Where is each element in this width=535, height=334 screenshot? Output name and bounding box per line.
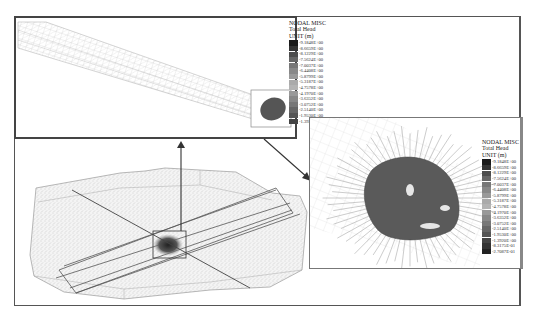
legend-swatch bbox=[482, 176, 491, 181]
legend-swatch bbox=[482, 215, 491, 220]
legend-swatch bbox=[482, 221, 491, 226]
top-legend: NODAL MISC Total Head UNIT (m) -9.1848E+… bbox=[289, 20, 326, 124]
rock-mass-block bbox=[30, 168, 307, 299]
legend-swatch bbox=[482, 199, 491, 204]
legend-row: -2.7087E-01 bbox=[482, 249, 519, 255]
legend-swatch bbox=[482, 204, 491, 209]
legend-swatch bbox=[289, 113, 298, 118]
legend-swatch bbox=[482, 210, 491, 215]
legend-swatch bbox=[482, 238, 491, 243]
legend-swatch bbox=[482, 226, 491, 231]
legend-swatch bbox=[482, 159, 491, 164]
legend-swatch bbox=[289, 63, 298, 68]
legend-swatch bbox=[482, 182, 491, 187]
legend-swatch bbox=[289, 52, 298, 57]
legend-swatch bbox=[482, 243, 491, 248]
legend-swatch bbox=[482, 187, 491, 192]
legend-swatch bbox=[289, 119, 298, 124]
legend-swatch bbox=[482, 249, 491, 254]
legend-title-3: UNIT (m) bbox=[482, 152, 519, 158]
tunnel-mesh-segment bbox=[16, 18, 297, 139]
legend-swatch bbox=[482, 193, 491, 198]
legend-swatch bbox=[289, 91, 298, 96]
legend-swatch bbox=[289, 80, 298, 85]
legend-swatch bbox=[289, 96, 298, 101]
legend-swatch bbox=[289, 107, 298, 112]
legend-swatch bbox=[289, 68, 298, 73]
legend-swatch bbox=[289, 85, 298, 90]
legend-value: -2.7087E-01 bbox=[492, 249, 515, 255]
top-inset-panel bbox=[14, 16, 297, 139]
legend-swatch bbox=[482, 171, 491, 176]
legend-swatch bbox=[289, 57, 298, 62]
legend-swatch bbox=[289, 40, 298, 45]
legend-swatch bbox=[289, 46, 298, 51]
legend-swatch bbox=[482, 165, 491, 170]
legend-title-3: UNIT (m) bbox=[289, 33, 326, 39]
legend-swatch bbox=[289, 74, 298, 79]
right-legend: NODAL MISC Total Head UNIT (m) -9.1848E+… bbox=[482, 139, 519, 254]
legend-swatch bbox=[482, 232, 491, 237]
legend-swatch bbox=[289, 102, 298, 107]
